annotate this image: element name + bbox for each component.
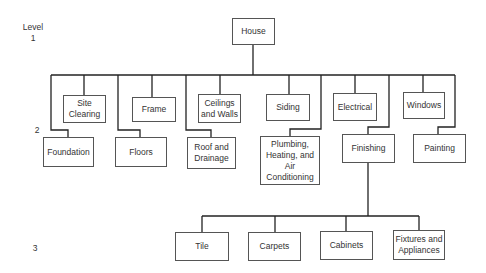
node-electrical: Electrical [333, 93, 377, 121]
node-cabinets: Cabinets [320, 231, 373, 260]
node-frame: Frame [132, 97, 176, 122]
node-windows: Windows [403, 92, 445, 119]
node-house: House [232, 18, 275, 45]
node-floors: Floors [115, 137, 167, 167]
node-siding: Siding [266, 94, 310, 121]
node-foundation: Foundation [43, 137, 94, 167]
node-plumbing-heating-ac: Plumbing, Heating, and Air Conditioning [260, 136, 320, 185]
node-site-clearing: Site Clearing [63, 95, 106, 123]
level-label-2: 2 [32, 125, 42, 136]
node-fixtures-and-appliances: Fixtures and Appliances [393, 230, 445, 260]
node-carpets: Carpets [248, 232, 301, 261]
level-label-3: 3 [30, 243, 40, 254]
node-finishing: Finishing [342, 134, 395, 163]
node-painting: Painting [413, 134, 466, 163]
node-tile: Tile [175, 232, 229, 261]
level-label-1: Level 1 [20, 22, 46, 44]
node-ceilings-and-walls: Ceilings and Walls [198, 94, 241, 123]
level-title: Level [20, 22, 46, 33]
node-roof-and-drainage: Roof and Drainage [187, 137, 236, 169]
level-number-1: 1 [20, 33, 46, 44]
